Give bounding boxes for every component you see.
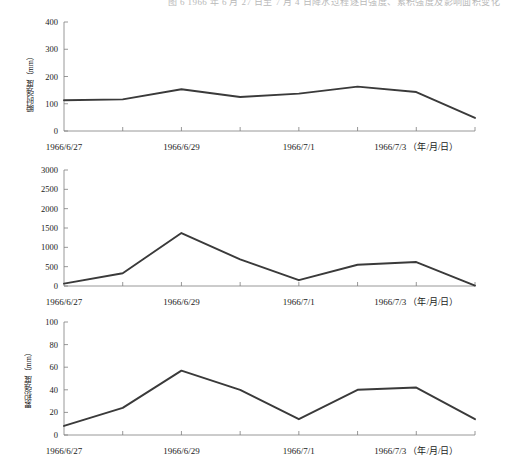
y-tick-label: 300 xyxy=(45,44,58,54)
x-tick-label: 1966/7/1 xyxy=(283,142,315,152)
axis-lines xyxy=(64,22,475,131)
y-tick-label: 0 xyxy=(54,126,58,136)
y-tick-label: 1000 xyxy=(41,242,58,252)
line-chart-2: 0500100015002000250030001966/6/271966/6/… xyxy=(0,160,510,312)
data-series-line xyxy=(64,233,475,286)
y-tick-label: 40 xyxy=(50,385,59,395)
chart-panel-instantaneous-intensity: 瞬时强度（mm） 01002003004001966/6/271966/6/29… xyxy=(0,12,510,162)
data-series-line xyxy=(64,371,475,426)
x-tick-label: 1966/7/1 xyxy=(283,297,315,307)
x-tick-label: 1966/6/27 xyxy=(46,446,83,456)
y-tick-label: 500 xyxy=(45,262,58,272)
figure-container: 图 6 1966 年 6 月 27 日至 7 月 4 日降水过程逐日强度、累积强… xyxy=(0,0,510,463)
x-tick-label: 1966/6/29 xyxy=(163,446,200,456)
y-tick-label: 100 xyxy=(45,99,58,109)
x-tick-label: 1966/7/3 （年/月/日） xyxy=(374,296,458,307)
y-tick-label: 400 xyxy=(45,17,58,27)
axis-lines xyxy=(64,170,475,286)
line-chart-1: 01002003004001966/6/271966/6/291966/7/11… xyxy=(0,12,510,162)
x-tick-label: 1966/7/3 （年/月/日） xyxy=(374,445,458,456)
chart-panel-cumulative-intensity: 累积强度（mm） 0500100015002000250030001966/6/… xyxy=(0,160,510,312)
axis-lines xyxy=(64,322,475,435)
y-tick-label: 0 xyxy=(54,430,58,440)
y-tick-label: 100 xyxy=(45,317,58,327)
x-tick-label: 1966/6/27 xyxy=(46,142,83,152)
x-tick-label: 1966/7/3 （年/月/日） xyxy=(374,141,458,152)
y-tick-label: 2000 xyxy=(41,204,58,214)
figure-caption: 图 6 1966 年 6 月 27 日至 7 月 4 日降水过程逐日强度、累积强… xyxy=(168,0,500,8)
y-tick-label: 80 xyxy=(50,340,59,350)
x-tick-label: 1966/6/29 xyxy=(163,297,200,307)
x-tick-label: 1966/6/27 xyxy=(46,297,83,307)
x-tick-label: 1966/7/1 xyxy=(283,446,315,456)
data-series-line xyxy=(64,87,475,118)
y-tick-label: 20 xyxy=(50,407,59,417)
line-chart-3: 0204060801001966/6/271966/6/291966/7/119… xyxy=(0,312,510,463)
y-tick-label: 3000 xyxy=(41,165,58,175)
y-tick-label: 60 xyxy=(50,362,59,372)
chart-panel-affected-area: 影响面积（万km²） 0204060801001966/6/271966/6/2… xyxy=(0,312,510,463)
y-tick-label: 200 xyxy=(45,72,58,82)
y-tick-label: 0 xyxy=(54,281,58,291)
y-tick-label: 1500 xyxy=(41,223,58,233)
y-axis-label-1: 瞬时强度（mm） xyxy=(26,52,35,112)
x-tick-label: 1966/6/29 xyxy=(163,142,200,152)
y-tick-label: 2500 xyxy=(41,184,58,194)
figure-caption-strip: 图 6 1966 年 6 月 27 日至 7 月 4 日降水过程逐日强度、累积强… xyxy=(0,0,510,10)
